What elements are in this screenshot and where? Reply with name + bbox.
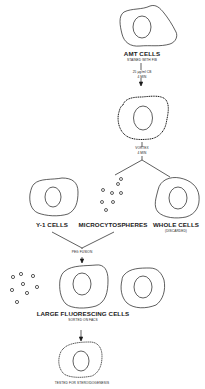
vortex-line1: VORTEX: [135, 146, 149, 150]
amt-cells-title: AMT CELLS: [124, 50, 160, 57]
blebbed-right-cell: [121, 268, 165, 308]
whole-cells-subtitle: (DISCARDED): [165, 229, 187, 233]
whole-nucleus: [169, 187, 187, 209]
final-cell: [59, 342, 102, 377]
amt-nucleus: [133, 16, 151, 38]
vortex-line2: 4 MIN: [137, 151, 146, 155]
right-nucleus: [134, 276, 152, 298]
steroidogenesis-label: TESTED FOR STEROIDOGENESIS: [55, 381, 110, 385]
y1-cell: [30, 178, 78, 216]
whole-cells-title: WHOLE CELLS: [153, 221, 199, 228]
microcytospheres-title: MICROCYTOSPHERES: [79, 221, 148, 228]
whole-cell: [155, 178, 199, 218]
large-fluorescing-subtitle: SORTED ON FACS: [68, 318, 98, 322]
blebbed-cell: [118, 96, 168, 139]
amt-cell: [120, 5, 177, 46]
free-microcytospheres: [10, 272, 38, 303]
y1-nucleus: [45, 187, 61, 207]
large-fluorescing-cell: [60, 265, 108, 308]
large-nucleus: [73, 273, 91, 295]
large-fluorescing-title: LARGE FLUORESCING CELLS: [37, 310, 130, 317]
y1-cells-title: Y-1 CELLS: [36, 221, 68, 228]
treatment-line1: 25 μg/ml CB: [133, 70, 152, 74]
treatment-line2: 4 MIN: [137, 75, 146, 79]
flow-diagram: [0, 0, 205, 389]
microcytospheres-dots: [101, 178, 123, 212]
amt-cells-subtitle: STAINED WITH FIB: [127, 58, 157, 62]
peg-fusion-label: PEG FUSION: [72, 250, 93, 254]
blebbed-nucleus: [134, 106, 153, 130]
final-nucleus: [73, 351, 89, 371]
